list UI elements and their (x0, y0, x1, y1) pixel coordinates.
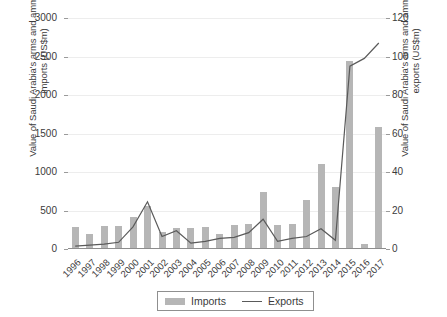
y-axis-left-tick-label: 1500 (0, 128, 57, 139)
legend-label-imports: Imports (191, 295, 226, 307)
y-axis-right-tick-mark (386, 249, 390, 250)
y-axis-left-tick-label: 500 (0, 205, 57, 216)
exports-line-series (68, 18, 386, 249)
y-axis-right-tick-mark (386, 95, 390, 96)
chart-legend: Imports Exports (157, 291, 314, 311)
y-axis-right-tick-mark (386, 211, 390, 212)
legend-item-imports: Imports (165, 295, 226, 307)
y-axis-left-tick-label: 0 (0, 243, 57, 254)
legend-item-exports: Exports (242, 295, 304, 307)
y-axis-right-tick-mark (386, 134, 390, 135)
y-axis-right-tick-mark (386, 172, 390, 173)
y-axis-right-tick-mark (386, 18, 390, 19)
y-axis-left-tick-mark (64, 249, 68, 250)
legend-label-exports: Exports (268, 295, 304, 307)
y-axis-right-tick-label: 40 (392, 166, 432, 177)
y-axis-right-tick-label: 20 (392, 205, 432, 216)
y-axis-right-tick-label: 120 (392, 12, 432, 23)
y-axis-right-tick-label: 100 (392, 51, 432, 62)
exports-line-path (75, 43, 379, 246)
x-axis-line (68, 248, 386, 249)
chart-figure: Value of Saudi Arabia's arms and ammunit… (0, 0, 447, 317)
plot-area (68, 18, 386, 249)
y-axis-left-tick-label: 2000 (0, 89, 57, 100)
y-axis-right-tick-mark (386, 57, 390, 58)
y-axis-left-tick-label: 2500 (0, 51, 57, 62)
exports-swatch-icon (242, 301, 262, 302)
y-axis-right-tick-label: 60 (392, 128, 432, 139)
y-axis-right-tick-label: 80 (392, 89, 432, 100)
y-axis-left-tick-label: 1000 (0, 166, 57, 177)
imports-swatch-icon (165, 298, 185, 305)
y-axis-right-tick-label: 0 (392, 243, 432, 254)
y-axis-left-tick-label: 3000 (0, 12, 57, 23)
